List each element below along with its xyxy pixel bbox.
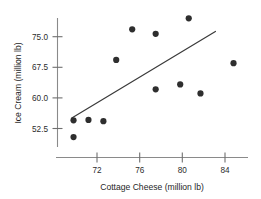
chart-canvas: 75.0 67.5 60.0 52.5 72 76 80 84 Cottage … <box>0 0 261 199</box>
x-axis-tick-labels: 72 76 80 84 <box>92 166 230 175</box>
scatter-plot-figure: 75.0 67.5 60.0 52.5 72 76 80 84 Cottage … <box>0 0 261 199</box>
y-axis-tick-labels: 75.0 67.5 60.0 52.5 <box>32 33 48 134</box>
data-point <box>113 57 119 63</box>
data-point <box>153 86 159 92</box>
data-point <box>129 26 135 32</box>
x-tick-label-0: 72 <box>92 166 102 175</box>
data-point <box>186 15 192 21</box>
y-tick-label-3: 52.5 <box>32 125 48 134</box>
y-axis-title: Ice Cream (million lb) <box>13 42 23 123</box>
trend-line <box>71 31 215 118</box>
data-point <box>100 118 106 124</box>
x-tick-label-1: 76 <box>135 166 145 175</box>
y-tick-label-0: 75.0 <box>32 33 48 42</box>
x-tick-label-2: 80 <box>178 166 188 175</box>
data-point <box>177 81 183 87</box>
x-tick-label-3: 84 <box>220 166 230 175</box>
x-axis-title: Cottage Cheese (million lb) <box>100 182 204 192</box>
data-point <box>197 90 203 96</box>
data-point <box>85 117 91 123</box>
data-point <box>153 31 159 37</box>
y-tick-label-1: 67.5 <box>32 63 48 72</box>
data-point <box>70 134 76 140</box>
y-tick-label-2: 60.0 <box>32 94 48 103</box>
data-point <box>70 117 76 123</box>
data-point <box>230 60 236 66</box>
